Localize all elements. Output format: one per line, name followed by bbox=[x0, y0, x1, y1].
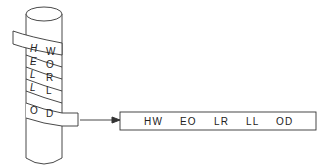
letter-row4-left: L bbox=[30, 82, 36, 93]
scytale-diagram: H W E O L R L L O D HW EO LR LL OD bbox=[0, 0, 332, 168]
output-group-1: HW bbox=[144, 116, 163, 127]
arrow-icon bbox=[80, 117, 120, 123]
letter-row3-left: L bbox=[30, 69, 36, 80]
output-strip: HW EO LR LL OD bbox=[120, 112, 316, 130]
letter-row2-right: O bbox=[46, 59, 54, 70]
letter-row3-right: R bbox=[46, 72, 53, 83]
output-group-3: LR bbox=[214, 116, 229, 127]
output-group-4: LL bbox=[246, 116, 260, 127]
output-group-2: EO bbox=[180, 116, 197, 127]
letter-row5-left: O bbox=[30, 105, 38, 116]
letter-row1-right: W bbox=[46, 46, 56, 57]
output-group-5: OD bbox=[276, 116, 293, 127]
letter-row1-left: H bbox=[30, 43, 38, 54]
letter-row5-right: D bbox=[46, 108, 53, 119]
letter-row4-right: L bbox=[46, 85, 52, 96]
letter-row2-left: E bbox=[30, 56, 37, 67]
